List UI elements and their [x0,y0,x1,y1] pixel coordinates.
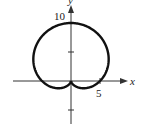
x-tick-label-5: 5 [96,87,102,99]
y-axis-arrow-icon [68,5,74,13]
y-axis-label: y [67,0,73,6]
x-axis-label: x [129,75,135,87]
y-tick-label-10: 10 [54,10,66,22]
x-axis-arrow-icon [120,78,128,84]
polar-plot: 10 5 x y [0,0,142,133]
